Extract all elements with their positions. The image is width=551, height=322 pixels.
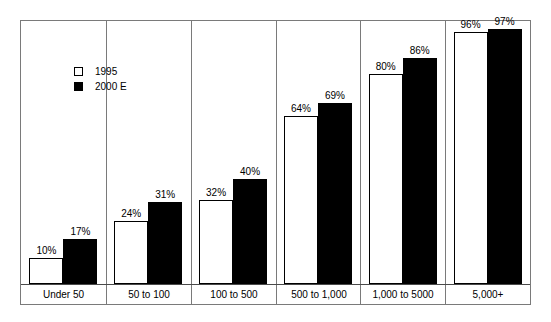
bar-2000-e-2 <box>233 179 267 284</box>
legend-item-2000e: 2000 E <box>74 79 127 94</box>
group-divider <box>191 21 192 284</box>
bar-1995-0 <box>29 258 63 284</box>
bar-value-label: 24% <box>114 208 148 219</box>
plot-area: 10%17%24%31%32%40%64%69%80%86%96%97% <box>21 21 530 284</box>
group-divider <box>360 21 361 284</box>
bar-value-label: 96% <box>454 19 488 30</box>
bar-2000-e-5 <box>488 29 522 284</box>
group-divider <box>276 21 277 284</box>
bar-value-label: 40% <box>233 166 267 177</box>
category-label-1: 50 to 100 <box>106 285 191 304</box>
bar-value-label: 64% <box>284 103 318 114</box>
bar-2000-e-1 <box>148 202 182 284</box>
category-label-5: 5,000+ <box>445 285 530 304</box>
group-divider <box>445 21 446 284</box>
legend-swatch-filled-square-icon <box>74 82 83 91</box>
category-label-3: 500 to 1,000 <box>276 285 361 304</box>
bar-1995-5 <box>454 32 488 284</box>
bar-value-label: 31% <box>148 189 182 200</box>
bar-2000-e-3 <box>318 103 352 284</box>
bar-1995-3 <box>284 116 318 284</box>
bar-value-label: 86% <box>403 45 437 56</box>
bar-value-label: 32% <box>199 187 233 198</box>
bar-1995-2 <box>199 200 233 284</box>
bar-chart: 10%17%24%31%32%40%64%69%80%86%96%97% Und… <box>0 0 551 322</box>
legend-item-1995: 1995 <box>74 64 127 79</box>
chart-legend: 1995 2000 E <box>74 64 127 94</box>
category-label-4: 1,000 to 5000 <box>360 285 445 304</box>
legend-swatch-open-square-icon <box>74 67 83 76</box>
bar-value-label: 97% <box>488 16 522 27</box>
bar-2000-e-4 <box>403 58 437 284</box>
legend-label: 1995 <box>95 66 117 77</box>
category-label-2: 100 to 500 <box>191 285 276 304</box>
bar-value-label: 10% <box>29 245 63 256</box>
bar-1995-1 <box>114 221 148 284</box>
bar-2000-e-0 <box>63 239 97 284</box>
category-label-0: Under 50 <box>21 285 106 304</box>
category-axis: Under 5050 to 100100 to 500500 to 1,0001… <box>21 284 530 304</box>
bar-value-label: 80% <box>369 61 403 72</box>
group-divider <box>106 21 107 284</box>
legend-label: 2000 E <box>95 81 127 92</box>
bar-value-label: 17% <box>63 226 97 237</box>
bar-value-label: 69% <box>318 90 352 101</box>
bar-1995-4 <box>369 74 403 284</box>
